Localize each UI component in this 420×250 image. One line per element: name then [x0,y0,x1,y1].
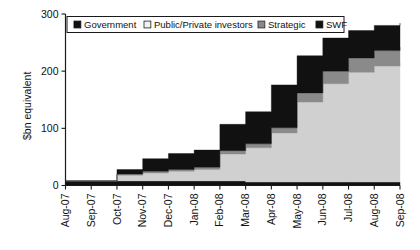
y-tick-label: 100 [41,122,59,134]
x-tick-label: Aug-08 [368,193,380,227]
x-tick-label: Apr-08 [265,193,277,225]
x-tick-label: Jul-08 [342,193,354,222]
y-tick-label: 0 [53,179,59,191]
chart-figure: 0100200300 Aug-07Sep-07Oct-07Nov-07Dec-0… [0,0,420,250]
legend-swatch-government [74,21,81,28]
x-tick-label: Feb-08 [213,193,225,226]
x-tick-label: Nov-07 [136,193,148,227]
x-tick-label: Mar-08 [239,193,251,226]
y-axis-title: $bn equivalent [21,72,33,140]
y-tick-label: 200 [41,65,59,77]
x-tick-label: Sep-08 [394,193,406,227]
x-tick-label: Oct-07 [111,193,123,225]
legend-label-strategic: Strategic [268,19,306,30]
legend-label-swf: SWF [326,19,347,30]
chart-canvas: 0100200300 Aug-07Sep-07Oct-07Nov-07Dec-0… [0,0,420,250]
legend-label-government: Government [84,19,137,30]
x-tick-label: Dec-07 [162,193,174,227]
legend-swatch-swf [316,21,323,28]
chart-legend: GovernmentPublic/Private investorsStrate… [67,17,347,33]
x-tick-label: Sep-07 [85,193,97,227]
legend-swatch-strategic [258,21,265,28]
x-tick-label: May-08 [291,193,303,228]
x-tick-label: Jun-08 [316,193,328,225]
legend-label-public-private-investors: Public/Private investors [154,19,253,30]
y-tick-label: 300 [41,8,59,20]
x-tick-label: Jan-08 [188,193,200,225]
x-tick-label: Aug-07 [59,193,71,227]
legend-swatch-public-private-investors [144,21,151,28]
